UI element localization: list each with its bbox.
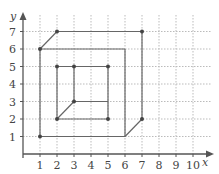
x-tick-label: 8: [156, 159, 163, 172]
outer-prism-vertex-point: [140, 117, 144, 121]
inner-prism-vertex-point: [106, 65, 110, 69]
inner-prism-vertex-point: [106, 117, 110, 121]
outer-prism-vertex-point: [140, 30, 144, 34]
x-tick-label: 10: [186, 159, 200, 172]
x-tick-label: 4: [88, 159, 95, 172]
inner-prism-vertex-point: [55, 117, 59, 121]
inner-prism-vertex-point: [72, 65, 76, 69]
x-tick-label: 5: [105, 159, 112, 172]
y-axis-label: y: [9, 10, 17, 23]
coordinate-grid-diagram: 123456789101234567xy: [0, 0, 219, 174]
outer-prism-vertex-point: [55, 30, 59, 34]
outer-prism-vertex-point: [38, 47, 42, 51]
y-tick-label: 5: [9, 61, 16, 74]
outer-prism-edge: [125, 119, 142, 137]
y-axis-arrow-icon: [20, 12, 27, 20]
x-tick-label: 6: [122, 159, 129, 172]
inner-prism-vertex-point: [72, 100, 76, 104]
y-tick-label: 1: [9, 131, 16, 144]
outer-prism-edge: [40, 32, 57, 50]
y-tick-label: 2: [9, 113, 16, 126]
y-tick-label: 6: [9, 43, 16, 56]
y-tick-label: 3: [9, 96, 16, 109]
x-tick-label: 1: [37, 159, 44, 172]
x-axis-label: x: [202, 156, 209, 169]
x-tick-label: 2: [54, 159, 61, 172]
x-tick-label: 3: [71, 159, 78, 172]
y-tick-label: 7: [9, 26, 16, 39]
inner-prism-vertex-point: [55, 65, 59, 69]
x-tick-label: 9: [173, 159, 180, 172]
inner-prism-edge: [57, 102, 74, 120]
x-tick-label: 7: [139, 159, 146, 172]
outer-prism-vertex-point: [38, 135, 42, 139]
y-tick-label: 4: [9, 78, 16, 91]
